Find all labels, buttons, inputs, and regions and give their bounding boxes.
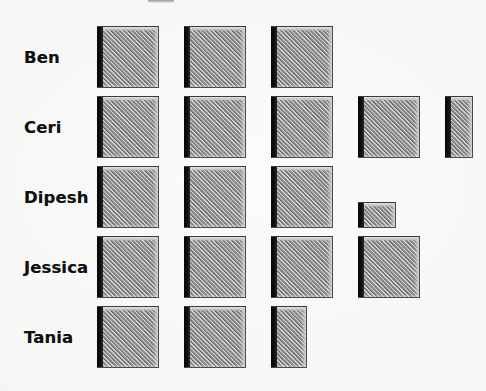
symbol-right-highlight <box>153 27 158 87</box>
symbol-bottom-highlight <box>190 294 245 297</box>
symbol-bottom-highlight <box>364 294 419 297</box>
symbol-left-shadow <box>184 167 190 227</box>
symbol-bottom-highlight <box>103 154 158 157</box>
symbol-top-highlight <box>184 307 245 311</box>
symbol-bottom-highlight <box>277 294 332 297</box>
symbol-right-highlight <box>153 97 158 157</box>
symbol-right-highlight <box>467 97 472 157</box>
row-label-tania: Tania <box>24 328 73 347</box>
pictogram-symbol-full <box>184 96 246 158</box>
symbol-top-highlight <box>358 237 419 241</box>
symbol-left-shadow <box>445 97 451 157</box>
symbol-bottom-highlight <box>103 84 158 87</box>
symbol-left-shadow <box>271 167 277 227</box>
pictogram-symbol-partial <box>445 96 473 158</box>
symbol-left-shadow <box>97 237 103 297</box>
symbol-right-highlight <box>240 97 245 157</box>
symbol-left-shadow <box>271 97 277 157</box>
pictogram-chart: BenCeriDipeshJessicaTania <box>0 0 486 391</box>
symbol-right-highlight <box>327 167 332 227</box>
pictogram-row: Jessica <box>0 236 486 298</box>
symbol-right-highlight <box>153 307 158 367</box>
pictogram-symbol-full <box>97 236 159 298</box>
symbol-right-highlight <box>414 237 419 297</box>
pictogram-symbol-full <box>358 236 420 298</box>
symbol-top-highlight <box>97 237 158 241</box>
symbol-bottom-highlight <box>190 84 245 87</box>
symbol-right-highlight <box>240 27 245 87</box>
symbol-left-shadow <box>184 27 190 87</box>
symbol-bottom-highlight <box>277 154 332 157</box>
symbol-top-highlight <box>97 167 158 171</box>
symbol-left-shadow <box>271 307 277 367</box>
symbol-bottom-highlight <box>190 224 245 227</box>
symbol-bottom-highlight <box>190 364 245 367</box>
symbol-bottom-highlight <box>103 224 158 227</box>
row-label-ben: Ben <box>24 48 60 67</box>
symbol-left-shadow <box>97 97 103 157</box>
symbol-bottom-highlight <box>190 154 245 157</box>
symbol-bottom-highlight <box>277 364 306 367</box>
symbol-left-shadow <box>184 307 190 367</box>
symbol-top-highlight <box>271 167 332 171</box>
pictogram-row: Dipesh <box>0 166 486 228</box>
pictogram-symbol-full <box>184 306 246 368</box>
pictogram-symbol-partial <box>271 306 307 368</box>
symbol-right-highlight <box>240 307 245 367</box>
symbol-top-highlight <box>271 27 332 31</box>
pictogram-symbol-full <box>358 96 420 158</box>
symbol-top-highlight <box>97 97 158 101</box>
symbol-left-shadow <box>97 27 103 87</box>
pictogram-row: Tania <box>0 306 486 368</box>
symbol-bottom-highlight <box>364 154 419 157</box>
pictogram-row: Ceri <box>0 96 486 158</box>
symbol-top-highlight <box>358 97 419 101</box>
symbol-right-highlight <box>153 167 158 227</box>
symbol-left-shadow <box>97 307 103 367</box>
symbol-top-highlight <box>97 307 158 311</box>
pictogram-row: Ben <box>0 26 486 88</box>
row-label-dipesh: Dipesh <box>24 188 89 207</box>
symbol-bottom-highlight <box>277 224 332 227</box>
symbol-left-shadow <box>358 203 364 227</box>
symbol-right-highlight <box>327 97 332 157</box>
symbol-right-highlight <box>327 27 332 87</box>
symbol-top-highlight <box>184 167 245 171</box>
symbol-top-highlight <box>184 27 245 31</box>
symbol-bottom-highlight <box>103 294 158 297</box>
symbol-bottom-highlight <box>364 224 395 227</box>
pictogram-symbol-full <box>184 26 246 88</box>
symbol-bottom-highlight <box>103 364 158 367</box>
pictogram-symbol-full <box>97 166 159 228</box>
pictogram-symbol-full <box>271 26 333 88</box>
row-label-ceri: Ceri <box>24 118 62 137</box>
pictogram-symbol-full <box>271 96 333 158</box>
symbol-right-highlight <box>327 237 332 297</box>
pictogram-symbol-partial <box>358 202 396 228</box>
pictogram-symbol-full <box>271 236 333 298</box>
pictogram-symbol-full <box>271 166 333 228</box>
symbol-top-highlight <box>97 27 158 31</box>
symbol-right-highlight <box>414 97 419 157</box>
symbol-left-shadow <box>97 167 103 227</box>
symbol-top-highlight <box>271 97 332 101</box>
symbol-left-shadow <box>358 237 364 297</box>
symbol-left-shadow <box>271 27 277 87</box>
symbol-bottom-highlight <box>451 154 472 157</box>
pictogram-symbol-full <box>184 166 246 228</box>
pictogram-symbol-full <box>97 26 159 88</box>
symbol-right-highlight <box>301 307 306 367</box>
symbol-top-highlight <box>271 237 332 241</box>
symbol-top-highlight <box>184 97 245 101</box>
symbol-left-shadow <box>271 237 277 297</box>
symbol-right-highlight <box>153 237 158 297</box>
symbol-bottom-highlight <box>277 84 332 87</box>
symbol-right-highlight <box>240 167 245 227</box>
symbol-left-shadow <box>184 97 190 157</box>
pictogram-symbol-full <box>97 306 159 368</box>
pictogram-symbol-full <box>97 96 159 158</box>
symbol-right-highlight <box>240 237 245 297</box>
pictogram-symbol-full <box>184 236 246 298</box>
symbol-left-shadow <box>358 97 364 157</box>
symbol-left-shadow <box>184 237 190 297</box>
